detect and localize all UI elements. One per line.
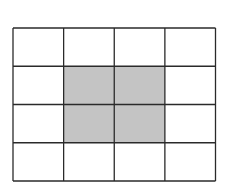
grid-cell <box>13 66 64 104</box>
shaded-cell <box>64 105 115 143</box>
shaded-cell <box>114 66 165 104</box>
grid-cell <box>165 28 216 66</box>
grid-cell <box>165 143 216 181</box>
grid-cell <box>64 28 115 66</box>
grid-cell <box>114 28 165 66</box>
shaded-cell <box>64 66 115 104</box>
grid-cell <box>13 143 64 181</box>
grid-cell <box>64 143 115 181</box>
grid-cell <box>114 143 165 181</box>
grid-cell <box>13 105 64 143</box>
shaded-cell <box>114 105 165 143</box>
grid-diagram <box>0 0 228 185</box>
grid-cell <box>165 105 216 143</box>
grid-cell <box>13 28 64 66</box>
grid-cell <box>165 66 216 104</box>
